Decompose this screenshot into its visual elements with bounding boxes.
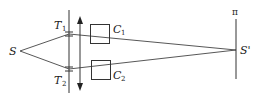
screen-label: π [232, 7, 238, 17]
image-label: S' [240, 44, 251, 57]
ray-s-to-t2 [20, 51, 69, 69]
cell-top-subscript: 1 [121, 29, 125, 37]
ray-t2-to-sprime [69, 50, 236, 69]
cell-c1-box [91, 25, 110, 44]
cell-c2-box [92, 61, 111, 80]
ray-s-to-t1 [20, 34, 69, 51]
cell-bottom-subscript: 2 [121, 75, 125, 83]
ray-t1-to-sprime [69, 34, 236, 50]
slit-top-subscript: 1 [62, 25, 66, 33]
source-label: S [9, 45, 17, 58]
slit-bottom-subscript: 2 [62, 80, 66, 88]
optics-diagram: S T 1 T 2 C 1 C 2 π S' [0, 0, 259, 99]
double-arrow-icon [77, 16, 83, 91]
